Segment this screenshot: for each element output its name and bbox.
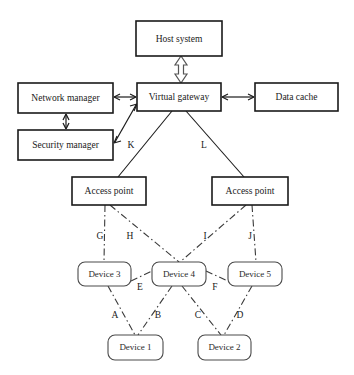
node-network-manager[interactable]: Network manager [18, 83, 113, 113]
node-access-point-right[interactable]: Access point [212, 177, 288, 205]
node-virtual-gateway[interactable]: Virtual gateway [137, 83, 221, 111]
node-data-cache[interactable]: Data cache [255, 83, 338, 111]
edge-label-d: D [237, 310, 244, 320]
node-security-manager[interactable]: Security manager [18, 130, 113, 160]
network-architecture-diagram: Host system Network manager Security man… [0, 0, 354, 375]
link-host-system-to-virtual-gateway-hollow-arrow [175, 56, 187, 83]
link-access-point-left-to-device-3 [104, 205, 105, 262]
edge-label-f: F [212, 282, 217, 292]
link-access-point-left-to-device-4 [110, 205, 179, 262]
node-device-4[interactable]: Device 4 [152, 262, 206, 286]
link-network-manager-to-security-manager [63, 114, 69, 129]
link-access-point-right-to-device-5 [252, 205, 256, 262]
edge-label-j: J [248, 231, 252, 241]
link-virtual-gateway-to-access-point-left [118, 111, 172, 177]
node-device-4-label: Device 4 [163, 269, 196, 279]
edge-label-g: G [97, 231, 104, 241]
link-security-manager-to-virtual-gateway [114, 104, 137, 143]
diagram-canvas: Host system Network manager Security man… [0, 0, 354, 375]
link-access-point-right-to-device-4 [180, 205, 246, 262]
edge-label-h: H [127, 231, 134, 241]
edge-label-c: C [195, 310, 201, 320]
node-access-point-left[interactable]: Access point [72, 177, 146, 205]
node-host-system-label: Host system [156, 34, 203, 44]
link-network-manager-to-virtual-gateway [114, 94, 136, 100]
node-device-5[interactable]: Device 5 [228, 262, 282, 286]
node-device-3[interactable]: Device 3 [78, 262, 131, 286]
node-virtual-gateway-label: Virtual gateway [149, 92, 210, 102]
node-device-3-label: Device 3 [88, 269, 121, 279]
node-device-1[interactable]: Device 1 [108, 335, 163, 360]
node-host-system[interactable]: Host system [136, 21, 222, 56]
node-access-point-right-label: Access point [226, 186, 275, 196]
node-security-manager-label: Security manager [32, 140, 100, 150]
edge-label-k: K [128, 140, 135, 150]
link-device-3-to-device-4 [131, 271, 152, 281]
node-device-5-label: Device 5 [239, 269, 272, 279]
node-device-2[interactable]: Device 2 [198, 335, 251, 360]
link-virtual-gateway-to-data-cache [222, 94, 254, 100]
edge-label-l: L [201, 140, 207, 150]
edge-label-e: E [137, 282, 143, 292]
edge-label-a: A [112, 310, 119, 320]
node-access-point-left-label: Access point [85, 186, 134, 196]
edge-label-i: I [203, 231, 206, 241]
link-device-4-to-device-2 [182, 286, 221, 335]
link-virtual-gateway-to-access-point-right [186, 111, 244, 177]
node-device-1-label: Device 1 [119, 342, 151, 352]
node-data-cache-label: Data cache [276, 92, 318, 102]
node-device-2-label: Device 2 [208, 342, 240, 352]
edge-label-b: B [155, 310, 161, 320]
node-network-manager-label: Network manager [31, 93, 100, 103]
link-device-4-to-device-5 [206, 271, 228, 281]
